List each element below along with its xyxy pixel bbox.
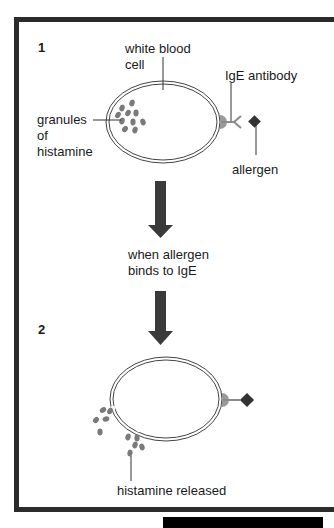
label-white-blood-cell: white blood cell — [125, 41, 191, 73]
caption-line: binds to IgE — [128, 263, 209, 279]
label-granules: granules of histamine — [37, 112, 93, 160]
label-allergen: allergen — [232, 162, 278, 178]
allergen-shape — [248, 115, 261, 128]
step-number-1: 1 — [38, 40, 45, 55]
caption-line: when allergen — [128, 247, 209, 263]
white-blood-cell-2 — [110, 357, 222, 441]
label-line: of — [37, 128, 93, 144]
label-line: white blood — [125, 41, 191, 57]
bound-ige-antibody — [222, 393, 240, 407]
label-line: granules — [37, 112, 93, 128]
label-histamine-released: histamine released — [117, 483, 226, 499]
transition-caption: when allergen binds to IgE — [128, 247, 209, 279]
bound-allergen-shape — [240, 393, 254, 407]
down-arrow-2 — [148, 291, 173, 345]
step-number-2: 2 — [38, 322, 45, 337]
down-arrow-1 — [148, 181, 173, 238]
label-line: histamine — [37, 144, 93, 160]
label-ige-antibody: IgE antibody — [225, 68, 297, 84]
label-line: cell — [125, 57, 191, 73]
